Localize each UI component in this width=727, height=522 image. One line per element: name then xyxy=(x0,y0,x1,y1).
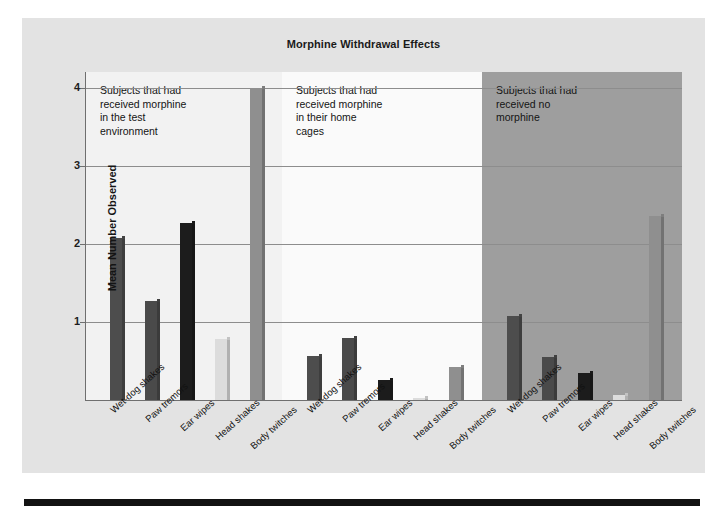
bar-top xyxy=(157,299,160,302)
y-tick-label-4: 4 xyxy=(50,81,80,93)
y-tick-label-2: 2 xyxy=(50,237,80,249)
figure-canvas: Morphine Withdrawal Effects 1234 Subject… xyxy=(0,0,727,522)
bar-side xyxy=(461,367,464,400)
bar-side xyxy=(519,316,522,400)
bottom-rule xyxy=(24,499,700,506)
bar-side xyxy=(590,373,593,400)
y-axis-title: Mean Number Observed xyxy=(106,128,118,328)
x-axis-label: Ear wipes xyxy=(376,397,414,433)
y-axis-ticks: 1234 xyxy=(44,72,80,412)
bar-top xyxy=(319,354,322,357)
x-axis-label: Head shakes xyxy=(213,397,262,442)
bar-top xyxy=(519,314,522,317)
bar-top xyxy=(425,396,428,399)
bar xyxy=(449,367,464,400)
bar xyxy=(649,216,664,400)
gridline-1 xyxy=(86,322,682,323)
x-axis-label: Head shakes xyxy=(411,397,460,442)
plot-area: Subjects that had received morphine in t… xyxy=(86,72,682,400)
bar-top xyxy=(661,214,664,217)
panel-note-test-environment: Subjects that had received morphine in t… xyxy=(100,84,220,138)
gridline-3 xyxy=(86,166,682,167)
bar-top xyxy=(461,365,464,368)
bar-side xyxy=(122,238,125,400)
y-tick-label-3: 3 xyxy=(50,159,80,171)
bar-top xyxy=(390,378,393,381)
bar xyxy=(250,88,265,400)
bar-side xyxy=(192,223,195,400)
bar-side xyxy=(157,301,160,400)
bar xyxy=(215,339,230,400)
bar-top xyxy=(192,221,195,224)
x-axis-labels: Wet-dog shakesPaw tremorsEar wipesHead s… xyxy=(86,401,682,481)
gridline-2 xyxy=(86,244,682,245)
bar-side xyxy=(227,339,230,400)
bar-top xyxy=(227,337,230,340)
bar-side xyxy=(262,88,265,400)
bar-top xyxy=(262,86,265,89)
bar-side xyxy=(390,380,393,400)
bar-top xyxy=(625,393,628,396)
x-axis-label: Body twitches xyxy=(447,404,498,451)
x-axis-label: Ear wipes xyxy=(178,397,216,433)
bar-top xyxy=(554,355,557,358)
y-tick-label-1: 1 xyxy=(50,315,80,327)
bar-top xyxy=(122,236,125,239)
x-axis-label: Ear wipes xyxy=(576,397,614,433)
panel-note-no-morphine: Subjects that had received no morphine xyxy=(496,84,616,125)
panel-home-cages: Subjects that had received morphine in t… xyxy=(282,72,482,400)
bar xyxy=(180,223,195,400)
bar-top xyxy=(590,371,593,374)
chart-title: Morphine Withdrawal Effects xyxy=(0,38,727,50)
panel-note-home-cages: Subjects that had received morphine in t… xyxy=(296,84,416,138)
x-axis-label: Body twitches xyxy=(248,404,299,451)
bar xyxy=(507,316,522,400)
gridline-4 xyxy=(86,88,682,89)
bar-side xyxy=(661,216,664,400)
x-axis-label: Head shakes xyxy=(611,397,660,442)
bar-top xyxy=(354,336,357,339)
y-axis-line xyxy=(85,72,86,401)
